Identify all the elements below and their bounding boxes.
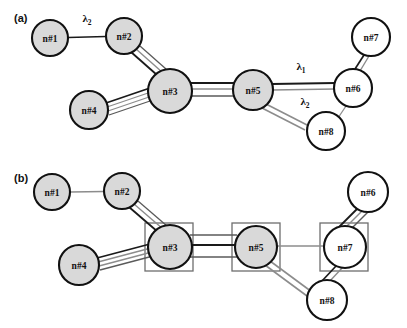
node-a-n8[interactable]: n#8 [307, 112, 345, 150]
node-a-n4-label: n#4 [82, 106, 97, 116]
node-b-n8-label: n#8 [320, 296, 335, 306]
node-b-n8[interactable]: n#8 [307, 280, 347, 320]
panel-b-label: (b) [14, 172, 28, 184]
node-a-n2[interactable]: n#2 [106, 18, 142, 54]
node-a-n4[interactable]: n#4 [70, 91, 108, 129]
node-a-n6[interactable]: n#6 [334, 69, 372, 107]
node-b-n3-label: n#3 [163, 243, 178, 253]
node-a-n5-label: n#5 [246, 86, 261, 96]
node-a-n5[interactable]: n#5 [233, 70, 273, 110]
lambda-subscript: 1 [302, 66, 306, 75]
node-b-n7[interactable]: n#7 [324, 226, 366, 268]
node-a-n2-label: n#2 [117, 32, 132, 42]
node-a-n1[interactable]: n#1 [32, 20, 68, 56]
node-a-n6-label: n#6 [346, 84, 361, 94]
node-b-n5-label: n#5 [249, 243, 264, 253]
lambda-subscript: 2 [306, 101, 310, 110]
node-a-n3-label: n#3 [163, 87, 178, 97]
lambda-subscript: 2 [88, 18, 92, 27]
network-figure: (a) [0, 0, 407, 328]
node-a-n1-label: n#1 [43, 34, 58, 44]
node-a-n8-label: n#8 [319, 127, 334, 137]
node-b-n5[interactable]: n#5 [235, 226, 277, 268]
node-b-n4-label: n#4 [72, 261, 87, 271]
panel-a-label: (a) [14, 12, 28, 24]
node-b-n4[interactable]: n#4 [59, 245, 99, 285]
node-b-n7-label: n#7 [338, 243, 353, 253]
node-a-n7-label: n#7 [364, 33, 379, 43]
node-b-n6-label: n#6 [361, 188, 376, 198]
node-b-n3[interactable]: n#3 [148, 225, 192, 269]
node-b-n6[interactable]: n#6 [348, 172, 388, 212]
node-b-n1-label: n#1 [45, 188, 60, 198]
node-a-n7[interactable]: n#7 [352, 18, 390, 56]
node-b-n1[interactable]: n#1 [34, 174, 70, 210]
edge-b-n1-n2 [70, 192, 104, 193]
node-a-n3[interactable]: n#3 [148, 69, 192, 113]
edge-n1-n2 [68, 37, 106, 38]
node-b-n2[interactable]: n#2 [104, 173, 140, 209]
node-b-n2-label: n#2 [115, 187, 130, 197]
